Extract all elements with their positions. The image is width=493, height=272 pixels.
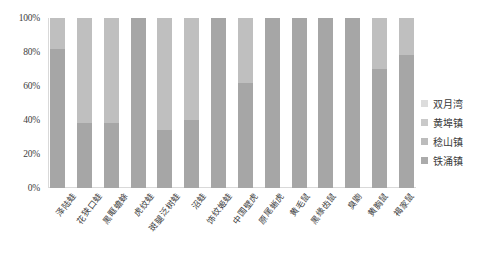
legend-item-label: 双月湾 [433, 96, 463, 111]
chart-legend: 双月湾黄埠镇稔山镇铁涌镇 [421, 94, 491, 170]
y-axis-tick-label: 100% [19, 13, 40, 23]
bar-column [104, 18, 119, 188]
bar-series-container [48, 18, 416, 188]
bar-column [372, 18, 387, 188]
y-axis: 0%20%40%60%80%100% [0, 18, 44, 188]
x-axis-tick-label: 黑眶蟾蜍 [99, 190, 131, 226]
legend-item-label: 铁涌镇 [433, 153, 463, 168]
bar-column [184, 18, 199, 188]
bar-segment [399, 55, 414, 188]
bar-segment [77, 18, 92, 123]
x-axis-tick-label: 沼蛙 [188, 190, 209, 212]
bar-segment [399, 18, 414, 55]
bar-segment [157, 130, 172, 188]
x-axis-tick-label: 黄胸鼠 [364, 190, 390, 219]
bar-column [292, 18, 307, 188]
bar-column [157, 18, 172, 188]
bar-column [131, 18, 146, 188]
legend-item[interactable]: 稔山镇 [421, 132, 491, 151]
legend-item[interactable]: 黄埠镇 [421, 113, 491, 132]
x-axis-tick-label: 臭鼩 [344, 190, 365, 212]
bar-column [318, 18, 333, 188]
x-axis-tick-label: 黑缘齿鼠 [307, 190, 339, 226]
bar-segment [184, 120, 199, 188]
legend-swatch-icon [421, 100, 428, 107]
bar-segment [318, 18, 333, 188]
legend-item-label: 黄埠镇 [433, 115, 463, 130]
bar-segment [77, 123, 92, 188]
bar-segment [238, 83, 253, 188]
legend-swatch-icon [421, 138, 428, 145]
stacked-bar-chart: 0%20%40%60%80%100% 泽陆蛙花狭口蛙黑眶蟾蜍虎纹蛙斑腿泛树蛙沼蛙… [0, 0, 493, 272]
bar-segment [372, 69, 387, 188]
legend-item[interactable]: 双月湾 [421, 94, 491, 113]
bar-column [211, 18, 226, 188]
bar-segment [265, 18, 280, 188]
legend-item-label: 稔山镇 [433, 134, 463, 149]
bar-column [265, 18, 280, 188]
y-axis-tick-label: 40% [23, 115, 40, 125]
bar-segment [157, 18, 172, 130]
legend-item[interactable]: 铁涌镇 [421, 151, 491, 170]
bar-segment [50, 18, 65, 49]
y-axis-tick-label: 20% [23, 149, 40, 159]
x-axis-tick-label: 饰纹姬蛙 [203, 190, 235, 226]
bar-segment [211, 18, 226, 188]
bar-segment [104, 18, 119, 123]
bar-column [50, 18, 65, 188]
x-axis-tick-label: 原尾蜥虎 [255, 190, 287, 226]
bar-column [238, 18, 253, 188]
x-axis-tick-label: 花狭口蛙 [73, 190, 105, 226]
x-axis: 泽陆蛙花狭口蛙黑眶蟾蜍虎纹蛙斑腿泛树蛙沼蛙饰纹姬蛙中国壁虎原尾蜥虎黄毛鼠黑缘齿鼠… [48, 190, 416, 270]
y-axis-tick-label: 60% [23, 81, 40, 91]
bar-segment [184, 18, 199, 120]
bar-column [345, 18, 360, 188]
x-axis-tick-label: 中国壁虎 [229, 190, 261, 226]
bar-column [399, 18, 414, 188]
legend-swatch-icon [421, 157, 428, 164]
y-axis-tick-label: 0% [28, 183, 40, 193]
bar-segment [345, 18, 360, 188]
bar-segment [292, 18, 307, 188]
legend-swatch-icon [421, 119, 428, 126]
bar-segment [104, 123, 119, 188]
bar-column [77, 18, 92, 188]
y-axis-tick-label: 80% [23, 47, 40, 57]
bar-segment [50, 49, 65, 188]
x-axis-tick-label: 褐家鼠 [390, 190, 416, 219]
bar-segment [131, 18, 146, 188]
bar-segment [238, 18, 253, 83]
plot-area [48, 18, 416, 188]
bar-segment [372, 18, 387, 69]
